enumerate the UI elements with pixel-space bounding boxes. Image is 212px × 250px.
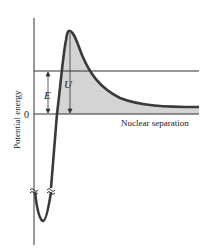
potential-energy-diagram: E U 0 Nuclear separation Potential energ…	[0, 0, 212, 250]
energy-label: E	[43, 89, 51, 101]
zero-label: 0	[24, 109, 29, 120]
y-axis-label: Potential energy	[12, 90, 22, 149]
potential-well	[35, 192, 51, 221]
barrier-label: U	[64, 78, 73, 90]
x-axis-label: Nuclear separation	[121, 118, 189, 128]
